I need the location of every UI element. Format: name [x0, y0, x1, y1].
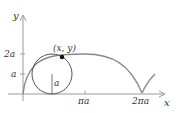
y-axis-label: y [12, 10, 19, 21]
cycloid-diagram: y x 2a a πa 2πa (x, y) a [0, 0, 181, 113]
cycloid-curve [23, 54, 155, 94]
x-axis-label: x [164, 97, 170, 108]
y-tick-label-a: a [11, 69, 16, 79]
tracing-point [60, 55, 65, 60]
x-tick-label-pi-a: πa [77, 96, 89, 106]
point-label: (x, y) [53, 43, 76, 53]
x-tick-label-2pi-a: 2πa [131, 96, 149, 106]
radius-label: a [54, 78, 59, 88]
axes [8, 15, 165, 101]
y-tick-label-2a: 2a [3, 49, 15, 59]
